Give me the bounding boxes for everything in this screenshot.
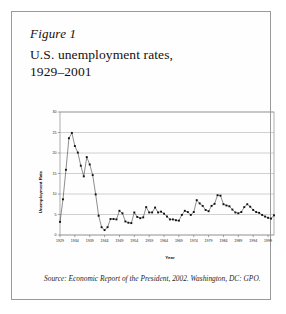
data-point [71,132,73,134]
figure-title-line-1: U.S. unemployment rates, [30,47,255,63]
data-point [249,206,251,208]
unemployment-line-chart: 051015202530 192919341939194419491954195… [30,104,278,264]
svg-text:1959: 1959 [145,239,153,243]
data-point [124,221,126,223]
data-point [104,229,106,231]
svg-text:1999: 1999 [264,239,272,243]
figure-frame: Figure 1 U.S. unemployment rates, 1929–2… [11,11,271,300]
data-point [74,145,76,147]
svg-text:1939: 1939 [86,239,94,243]
figure-label: Figure 1 [30,27,255,41]
data-point [181,214,183,216]
data-point [246,203,248,205]
svg-text:1954: 1954 [130,239,138,243]
data-point [214,203,216,205]
data-point [172,218,174,220]
svg-text:1964: 1964 [160,239,168,243]
data-point [89,164,91,166]
y-axis-title: Unemployment Rate [38,170,43,213]
data-point [202,205,204,207]
data-point [151,212,153,214]
svg-text:25: 25 [52,131,56,135]
svg-text:1994: 1994 [249,239,257,243]
data-point [83,175,85,177]
data-point [92,174,94,176]
svg-text:0: 0 [54,233,56,237]
figure-caption-block: Figure 1 U.S. unemployment rates, 1929–2… [30,27,255,80]
data-point [240,211,242,213]
data-series [59,132,275,231]
data-point [243,206,245,208]
svg-text:15: 15 [52,172,56,176]
data-point [237,212,239,214]
svg-text:1934: 1934 [71,239,79,243]
data-point [196,199,198,201]
svg-text:30: 30 [52,110,56,114]
data-point [163,213,165,215]
data-point [211,205,213,207]
data-point [208,210,210,212]
data-point [231,209,233,211]
data-point [98,215,100,217]
data-point [234,212,236,214]
svg-text:1984: 1984 [219,239,227,243]
data-point [116,218,118,220]
source-text: Economic Report of the President, 2002. … [67,274,261,283]
data-point [264,216,266,218]
data-point [121,212,123,214]
data-point [148,212,150,214]
data-point [154,207,156,209]
data-point [59,221,61,223]
data-point [65,169,67,171]
data-point [187,211,189,213]
data-point [228,205,230,207]
data-point [136,216,138,218]
chart-svg: 051015202530 192919341939194419491954195… [30,104,278,264]
data-point [190,214,192,216]
data-point [270,218,272,220]
data-point [199,202,201,204]
data-point [68,137,70,139]
data-point [118,210,120,212]
data-point [145,206,147,208]
data-point [80,165,82,167]
data-point [220,195,222,197]
data-point [110,218,112,220]
data-point [217,194,219,196]
svg-text:1989: 1989 [234,239,242,243]
data-point [273,214,275,216]
svg-text:1979: 1979 [205,239,213,243]
data-point [62,198,64,200]
svg-text:1944: 1944 [101,239,109,243]
data-point [258,212,260,214]
svg-text:1969: 1969 [175,239,183,243]
data-point [175,219,177,221]
data-point [77,152,79,154]
svg-text:20: 20 [52,151,56,155]
data-point [205,209,207,211]
page-title: U.S. unemployment rates, 1929–2001 [30,47,255,80]
svg-text:5: 5 [54,213,56,217]
data-point [95,193,97,195]
data-point [127,222,129,224]
data-point [86,156,88,158]
data-point [142,216,144,218]
data-point [133,212,135,214]
y-axis-ticks: 051015202530 [52,110,60,237]
figure-title-line-2: 1929–2001 [30,64,255,80]
data-point [193,211,195,213]
data-point [139,217,141,219]
data-point [101,226,103,228]
source-note: Source: Economic Report of the President… [44,274,272,285]
data-point [184,210,186,212]
data-point [178,220,180,222]
data-point [252,209,254,211]
svg-text:1929: 1929 [56,239,64,243]
data-point [130,222,132,224]
data-point [160,211,162,213]
data-point [107,226,109,228]
data-point [225,205,227,207]
data-point [169,218,171,220]
data-point [267,217,269,219]
x-axis-title: Year [165,255,175,260]
